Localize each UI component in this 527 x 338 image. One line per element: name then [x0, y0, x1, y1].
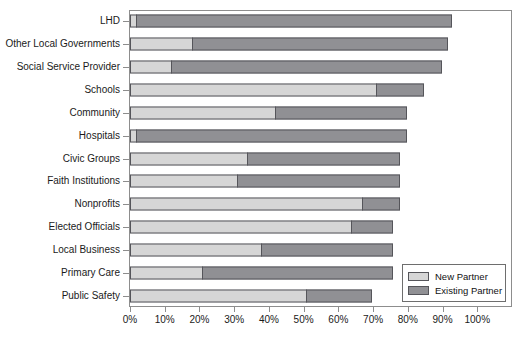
- bar-segment-existing-partner: [261, 243, 393, 256]
- bar-row: [130, 83, 424, 96]
- x-axis-tick-label: 10%: [155, 314, 175, 325]
- category-label-faith-institutions: Faith Institutions: [47, 176, 120, 186]
- category-label-public-safety: Public Safety: [62, 291, 120, 301]
- x-axis-tick: [373, 307, 374, 312]
- bar-segment-existing-partner: [237, 175, 400, 188]
- bar-row: [130, 129, 407, 142]
- x-axis-tick-label: 100%: [464, 314, 490, 325]
- category-label-elected-officials: Elected Officials: [48, 222, 120, 232]
- category-label-other-local-governments: Other Local Governments: [6, 39, 121, 49]
- x-axis-tick-label: 80%: [398, 314, 418, 325]
- y-axis-tick: [123, 159, 129, 160]
- chart-legend: New Partner Existing Partner: [402, 264, 506, 302]
- bar-segment-existing-partner: [136, 15, 452, 28]
- x-axis-tick-label: 0%: [123, 314, 137, 325]
- category-axis: LHDOther Local GovernmentsSocial Service…: [0, 10, 126, 307]
- bar-segment-existing-partner: [306, 289, 372, 302]
- bar-segment-existing-partner: [376, 83, 425, 96]
- bar-row: [130, 243, 393, 256]
- y-axis-tick: [123, 136, 129, 137]
- category-label-schools: Schools: [84, 85, 120, 95]
- bar-segment-new-partner: [130, 243, 262, 256]
- y-axis-tick: [123, 44, 129, 45]
- bar-segment-existing-partner: [136, 129, 407, 142]
- bar-segment-new-partner: [130, 175, 238, 188]
- x-axis-tick-label: 40%: [259, 314, 279, 325]
- bar-row: [130, 289, 372, 302]
- bars-layer: [130, 10, 512, 307]
- bar-segment-new-partner: [130, 83, 377, 96]
- bar-segment-new-partner: [130, 289, 307, 302]
- legend-item-existing-partner: Existing Partner: [408, 283, 500, 297]
- y-axis-tick: [123, 227, 129, 228]
- bar-row: [130, 266, 393, 279]
- bar-segment-new-partner: [130, 198, 363, 211]
- bar-segment-new-partner: [130, 152, 248, 165]
- y-axis-tick: [123, 273, 129, 274]
- category-label-hospitals: Hospitals: [79, 131, 120, 141]
- bar-segment-new-partner: [130, 106, 276, 119]
- bar-segment-existing-partner: [202, 266, 393, 279]
- bar-row: [130, 38, 448, 51]
- bar-segment-existing-partner: [362, 198, 400, 211]
- y-axis-tick: [123, 250, 129, 251]
- bar-segment-existing-partner: [247, 152, 400, 165]
- legend-swatch-new-partner-icon: [408, 272, 429, 281]
- bar-segment-existing-partner: [351, 221, 393, 234]
- bar-row: [130, 106, 407, 119]
- y-axis-tick: [123, 21, 129, 22]
- y-axis-tick: [123, 67, 129, 68]
- x-axis-tick: [199, 307, 200, 312]
- x-axis-tick-label: 60%: [328, 314, 348, 325]
- bar-segment-existing-partner: [275, 106, 407, 119]
- x-axis-tick: [234, 307, 235, 312]
- bar-segment-new-partner: [130, 221, 352, 234]
- y-axis-tick: [123, 296, 129, 297]
- legend-label-existing-partner: Existing Partner: [435, 285, 502, 296]
- x-axis-tick-label: 70%: [363, 314, 383, 325]
- y-axis-tick: [123, 113, 129, 114]
- category-label-nonprofits: Nonprofits: [74, 199, 120, 209]
- y-axis-tick: [123, 204, 129, 205]
- x-axis-tick: [408, 307, 409, 312]
- bar-segment-new-partner: [130, 61, 172, 74]
- y-axis-tick: [123, 90, 129, 91]
- bar-row: [130, 15, 452, 28]
- category-label-civic-groups: Civic Groups: [63, 154, 120, 164]
- bar-row: [130, 152, 400, 165]
- category-label-local-business: Local Business: [53, 245, 120, 255]
- category-label-social-service-provider: Social Service Provider: [17, 62, 120, 72]
- bar-row: [130, 198, 400, 211]
- x-axis-tick: [338, 307, 339, 312]
- legend-item-new-partner: New Partner: [408, 269, 500, 283]
- legend-label-new-partner: New Partner: [435, 271, 488, 282]
- stacked-bar-chart: LHDOther Local GovernmentsSocial Service…: [0, 0, 527, 338]
- x-axis-tick-label: 20%: [189, 314, 209, 325]
- x-axis-tick: [477, 307, 478, 312]
- bar-row: [130, 221, 393, 234]
- bar-segment-new-partner: [130, 38, 193, 51]
- bar-row: [130, 175, 400, 188]
- bar-segment-existing-partner: [171, 61, 442, 74]
- bar-segment-new-partner: [130, 266, 203, 279]
- x-axis-tick: [165, 307, 166, 312]
- y-axis-tick: [123, 181, 129, 182]
- category-label-community: Community: [69, 108, 120, 118]
- legend-swatch-existing-partner-icon: [408, 286, 429, 295]
- category-label-lhd: LHD: [100, 16, 120, 26]
- category-label-primary-care: Primary Care: [61, 268, 120, 278]
- x-axis-tick-label: 90%: [433, 314, 453, 325]
- bar-row: [130, 61, 442, 74]
- x-axis-tick: [269, 307, 270, 312]
- x-axis-tick-label: 50%: [294, 314, 314, 325]
- x-axis-tick-label: 30%: [224, 314, 244, 325]
- x-axis: 0%10%20%30%40%50%60%70%80%90%100%: [129, 307, 512, 337]
- x-axis-tick: [304, 307, 305, 312]
- bar-segment-existing-partner: [192, 38, 449, 51]
- x-axis-tick: [130, 307, 131, 312]
- x-axis-tick: [443, 307, 444, 312]
